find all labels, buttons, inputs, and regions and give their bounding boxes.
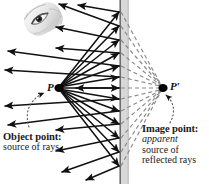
dotted-curve-to-image-point — [166, 95, 173, 123]
incident-ray-group — [59, 12, 119, 166]
image-point-label: P′ — [170, 80, 180, 92]
plane-mirror — [120, 0, 129, 184]
image-point-dot — [158, 84, 167, 92]
object-point-label: P — [47, 81, 54, 93]
object-caption-line1: source of rays — [3, 142, 62, 153]
object-point-dot — [54, 84, 63, 92]
mirror-reflection-figure: P P′ Object point: source of rays Image … — [0, 0, 209, 184]
image-caption-line3: reflected rays — [142, 155, 198, 166]
object-point-caption: Object point: source of rays — [3, 131, 62, 153]
image-point-caption: Image point: apparent source of reflecte… — [142, 123, 198, 166]
image-caption-line1: apparent — [142, 134, 198, 145]
